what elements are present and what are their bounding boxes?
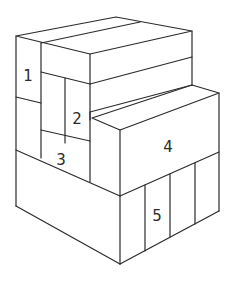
lower-block-edges xyxy=(16,150,219,264)
label-5: 5 xyxy=(152,207,162,225)
block-stack-diagram: 1 2 3 4 5 xyxy=(0,0,239,283)
label-2: 2 xyxy=(72,110,82,128)
upper-block-edges xyxy=(16,17,192,206)
label-1: 1 xyxy=(23,67,33,85)
block-4-edges xyxy=(92,85,219,264)
label-4: 4 xyxy=(163,138,173,156)
label-3: 3 xyxy=(56,151,66,169)
